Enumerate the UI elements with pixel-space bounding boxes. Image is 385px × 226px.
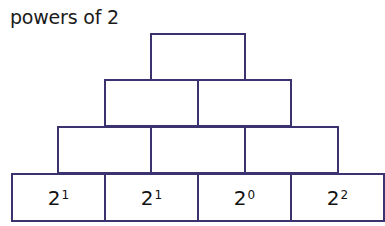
pyramid-cell-r4-c3: 20 xyxy=(197,173,292,222)
pyramid-cell-r4-c1: 21 xyxy=(11,173,106,222)
cell-exponent: 1 xyxy=(155,188,163,202)
pyramid-cell-r2-c2[interactable] xyxy=(197,79,292,127)
cell-base: 2 xyxy=(327,186,340,210)
pyramid-cell-r4-c4: 22 xyxy=(290,173,385,222)
cell-exponent: 1 xyxy=(62,188,70,202)
cell-base: 2 xyxy=(141,186,154,210)
cell-base: 2 xyxy=(234,186,247,210)
pyramid-cell-r2-c1[interactable] xyxy=(104,79,199,127)
cell-exponent: 0 xyxy=(248,188,256,202)
diagram-title: powers of 2 xyxy=(10,6,119,28)
pyramid-cell-r3-c3[interactable] xyxy=(244,126,339,174)
pyramid-cell-r1-c1[interactable] xyxy=(150,33,246,81)
cell-base: 2 xyxy=(48,186,61,210)
pyramid-cell-r3-c1[interactable] xyxy=(57,126,152,174)
pyramid-cell-r4-c2: 21 xyxy=(104,173,199,222)
cell-exponent: 2 xyxy=(341,188,349,202)
pyramid-cell-r3-c2[interactable] xyxy=(150,126,246,174)
